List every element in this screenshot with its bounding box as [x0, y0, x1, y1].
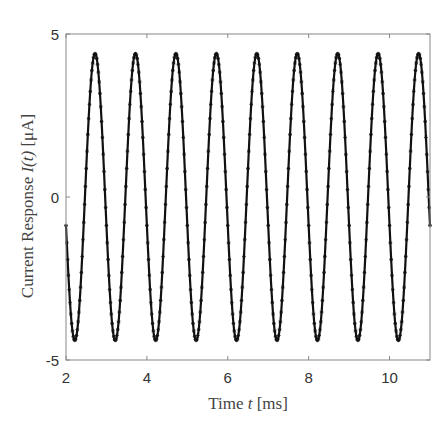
x-tick-label: 4	[143, 369, 151, 386]
line-chart: 246810 -505 Time t [ms] Current Response…	[0, 0, 446, 425]
x-tick-label: 2	[62, 369, 70, 386]
data-series	[64, 52, 432, 342]
x-axis-label: Time t [ms]	[208, 394, 288, 413]
x-tick-label: 6	[224, 369, 232, 386]
y-axis-label: Current Response I(t) [μA]	[18, 114, 37, 298]
x-tick-label: 10	[381, 369, 398, 386]
series-line	[66, 54, 430, 341]
x-tick-label: 8	[304, 369, 312, 386]
y-tick-label: 0	[51, 189, 59, 206]
y-axis-ticks: -505	[46, 26, 430, 369]
y-tick-label: 5	[51, 26, 59, 43]
y-tick-label: -5	[46, 352, 59, 369]
